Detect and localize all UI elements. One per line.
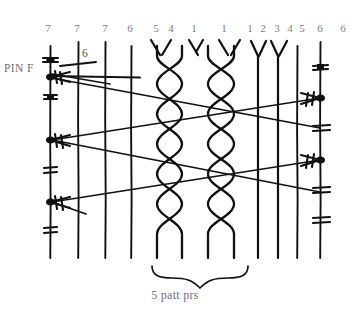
- fork-stem: [251, 41, 258, 258]
- column-label: 4: [164, 22, 178, 35]
- diagram-ink: [43, 40, 330, 288]
- column-label: 1: [217, 22, 231, 35]
- fork-arm: [162, 40, 171, 55]
- fork-arm: [279, 41, 287, 56]
- column-label: 6: [313, 22, 327, 35]
- column-label: 6: [123, 22, 137, 35]
- fork-arm: [259, 41, 266, 56]
- column-label: 2: [256, 22, 270, 35]
- pin-marker: [313, 64, 328, 70]
- traveller-thread: [52, 98, 320, 140]
- pin-marker: [43, 57, 58, 63]
- fork-arm: [219, 40, 228, 55]
- pin-arrow-marker: [301, 92, 325, 106]
- inner-six-label: 6: [82, 47, 88, 59]
- column-label: 7: [41, 22, 55, 35]
- fork-stem: [271, 41, 278, 258]
- braid-crossings: [157, 46, 234, 258]
- brace-curve: [152, 266, 248, 288]
- traveller-thread: [52, 78, 320, 128]
- figure-canvas: 7 7 7 6 5 4 1 1 1 2 3 4 5 6 6 PIN F 6 5 …: [0, 0, 350, 317]
- pin-marker: [313, 187, 330, 193]
- lace-diagram-svg: [0, 0, 350, 317]
- column-label: 7: [70, 22, 84, 35]
- right-pin-markers: [301, 64, 330, 223]
- column-label: 5: [149, 22, 163, 35]
- vertical-threads-right: [297, 42, 321, 258]
- left-pin-markers: [43, 57, 70, 233]
- column-label: 7: [98, 22, 112, 35]
- pair-join-forks: [151, 40, 287, 258]
- fork-arm: [231, 40, 240, 55]
- pattern-pairs-caption: 5 patt prs: [0, 288, 350, 303]
- vertical-thread: [297, 46, 298, 258]
- column-label: 1: [243, 22, 257, 35]
- vertical-thread: [78, 42, 79, 258]
- fork-arm: [151, 40, 160, 55]
- fork-arm: [196, 40, 203, 52]
- vertical-thread: [320, 42, 321, 258]
- pattern-pairs-brace: [152, 266, 248, 288]
- pin-f-label: PIN F: [4, 62, 34, 74]
- column-label: 6: [336, 22, 350, 35]
- pin-arrow-marker: [46, 196, 70, 210]
- column-label: 3: [270, 22, 284, 35]
- column-label: 1: [187, 22, 201, 35]
- pin-marker: [44, 94, 57, 100]
- diagonal-travellers: [52, 74, 320, 214]
- pin-arrow-marker: [301, 154, 325, 168]
- column-label: 5: [295, 22, 309, 35]
- pin-marker: [313, 217, 330, 223]
